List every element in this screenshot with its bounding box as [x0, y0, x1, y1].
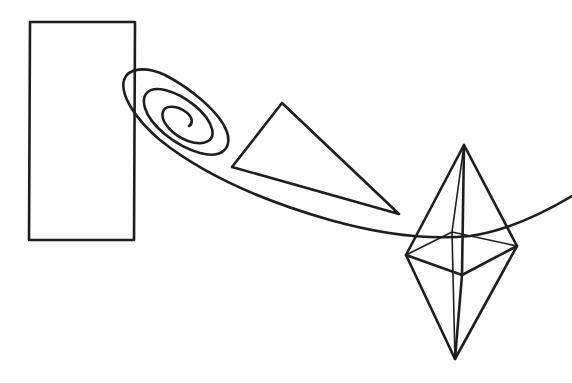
line-drawing: Black line drawing of geometric shapes c…	[0, 0, 572, 383]
octahedron-shape	[406, 145, 517, 359]
rectangle-shape	[29, 22, 135, 240]
triangle-shape	[232, 103, 399, 214]
spiral-curve	[123, 69, 572, 237]
drawing-svg	[0, 0, 572, 383]
